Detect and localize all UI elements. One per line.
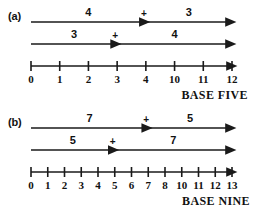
second-addend-label: 5: [187, 113, 193, 124]
axis-tick-label: 4: [95, 180, 101, 191]
axis-tick-label: 10: [176, 180, 187, 191]
plus-sign: +: [141, 9, 147, 19]
panel-base-five: (a) 4+33+401234101112 BASE FIVE: [0, 0, 257, 106]
second-addend-label: 7: [170, 135, 176, 146]
axis-tick-label: 1: [45, 180, 51, 191]
plus-sign: +: [110, 137, 116, 147]
axis-tick-label: 5: [112, 180, 118, 191]
second-addend-label: 3: [186, 7, 192, 18]
first-addend-label: 4: [85, 7, 91, 18]
plus-sign: +: [143, 115, 149, 125]
axis-tick-label: 2: [62, 180, 68, 191]
panel-base-nine: (b) 7+55+701234567810111213 BASE NINE: [0, 106, 257, 212]
axis-tick-label: 0: [28, 74, 34, 85]
first-addend-label: 5: [70, 135, 76, 146]
plus-sign: +: [112, 31, 118, 41]
first-addend-label: 3: [71, 29, 77, 40]
axis-tick-label: 3: [114, 74, 120, 85]
axis-tick-label: 6: [129, 180, 135, 191]
first-addend-label: 7: [87, 113, 93, 124]
base-label-b: BASE NINE: [182, 194, 250, 209]
axis-tick-label: 11: [193, 180, 203, 191]
second-addend-label: 4: [172, 29, 178, 40]
axis-tick-label: 12: [227, 74, 238, 85]
axis-tick-label: 3: [79, 180, 85, 191]
axis-tick-label: 13: [227, 180, 238, 191]
axis-tick-label: 1: [57, 74, 63, 85]
axis-tick-label: 11: [198, 74, 208, 85]
number-line-axis-b: [31, 167, 232, 177]
arrow-rows-a: [31, 22, 226, 44]
axis-tick-label: 7: [146, 180, 152, 191]
number-line-axis-a: [31, 61, 232, 71]
base-label-a: BASE FIVE: [181, 88, 248, 103]
arrow-rows-b: [31, 128, 226, 150]
axis-tick-label: 12: [210, 180, 221, 191]
axis-tick-label: 8: [162, 180, 168, 191]
axis-tick-label: 0: [28, 180, 34, 191]
axis-tick-label: 10: [169, 74, 180, 85]
axis-tick-label: 4: [143, 74, 149, 85]
axis-tick-label: 2: [86, 74, 92, 85]
